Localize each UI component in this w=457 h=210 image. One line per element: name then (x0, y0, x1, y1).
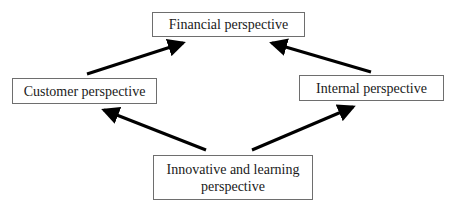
node-label: Innovative and learning perspective (167, 161, 300, 195)
arrow-internal-to-financial (272, 43, 371, 72)
node-label: Financial perspective (169, 16, 288, 33)
arrow-customer-to-financial (87, 43, 183, 74)
node-financial-perspective: Financial perspective (152, 12, 305, 37)
node-innovative-learning-perspective: Innovative and learning perspective (153, 155, 313, 200)
node-label: Customer perspective (24, 83, 146, 100)
node-internal-perspective: Internal perspective (299, 75, 444, 101)
arrow-innovative-to-internal (252, 107, 353, 150)
node-customer-perspective: Customer perspective (12, 78, 157, 104)
arrow-innovative-to-customer (104, 110, 206, 150)
node-label: Internal perspective (316, 80, 427, 97)
